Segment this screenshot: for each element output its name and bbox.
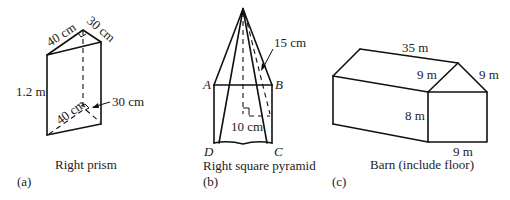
pyramid-slant-line xyxy=(245,14,270,114)
prism-bottom-edge xyxy=(47,124,101,135)
vertex-a: A xyxy=(202,77,211,92)
barn-back-roof-edge xyxy=(333,49,360,76)
arrow-head-icon xyxy=(92,103,99,108)
figure-right-prism: 40 cm 30 cm 1.2 m 40 cm 30 cm Right pris… xyxy=(16,13,144,189)
barn-eave-line xyxy=(333,76,428,92)
prism-hidden-bottom-right xyxy=(86,110,100,122)
caption-pyramid: Right square pyramid xyxy=(203,158,316,173)
figure-right-square-pyramid: 15 cm 10 cm A B C D Right square pyramid… xyxy=(202,7,316,189)
pyramid-edge-b xyxy=(243,9,272,85)
label-roof-left: 9 m xyxy=(417,67,437,82)
barn-base-line xyxy=(333,124,428,142)
label-bottom-right-edge: 30 cm xyxy=(112,94,144,109)
pyramid-edge-dc xyxy=(214,142,272,144)
figure-letter-a: (a) xyxy=(17,174,31,189)
figure-letter-c: (c) xyxy=(332,174,346,189)
label-height: 1.2 m xyxy=(16,84,46,99)
vertex-b: B xyxy=(275,77,283,92)
diagram-canvas: 40 cm 30 cm 1.2 m 40 cm 30 cm Right pris… xyxy=(0,0,510,200)
caption-right-prism: Right prism xyxy=(55,157,117,172)
figure-barn: 35 m 9 m 9 m 8 m 9 m Barn (include floor… xyxy=(332,40,499,189)
vertex-d: D xyxy=(203,144,214,159)
label-bottom-left-edge: 40 cm xyxy=(53,96,88,127)
label-slant-height: 15 cm xyxy=(274,35,306,50)
label-base-side: 10 cm xyxy=(231,119,263,134)
caption-barn: Barn (include floor) xyxy=(370,157,474,172)
right-angle-mark-pyramid xyxy=(243,108,249,115)
figure-letter-b: (b) xyxy=(203,174,218,189)
vertex-c: C xyxy=(274,144,283,159)
label-length: 35 m xyxy=(402,40,428,55)
pyramid-edge-a xyxy=(214,9,243,85)
label-top-right-edge: 30 cm xyxy=(84,13,118,45)
label-wall-height: 8 m xyxy=(405,108,425,123)
label-roof-right: 9 m xyxy=(479,67,499,82)
